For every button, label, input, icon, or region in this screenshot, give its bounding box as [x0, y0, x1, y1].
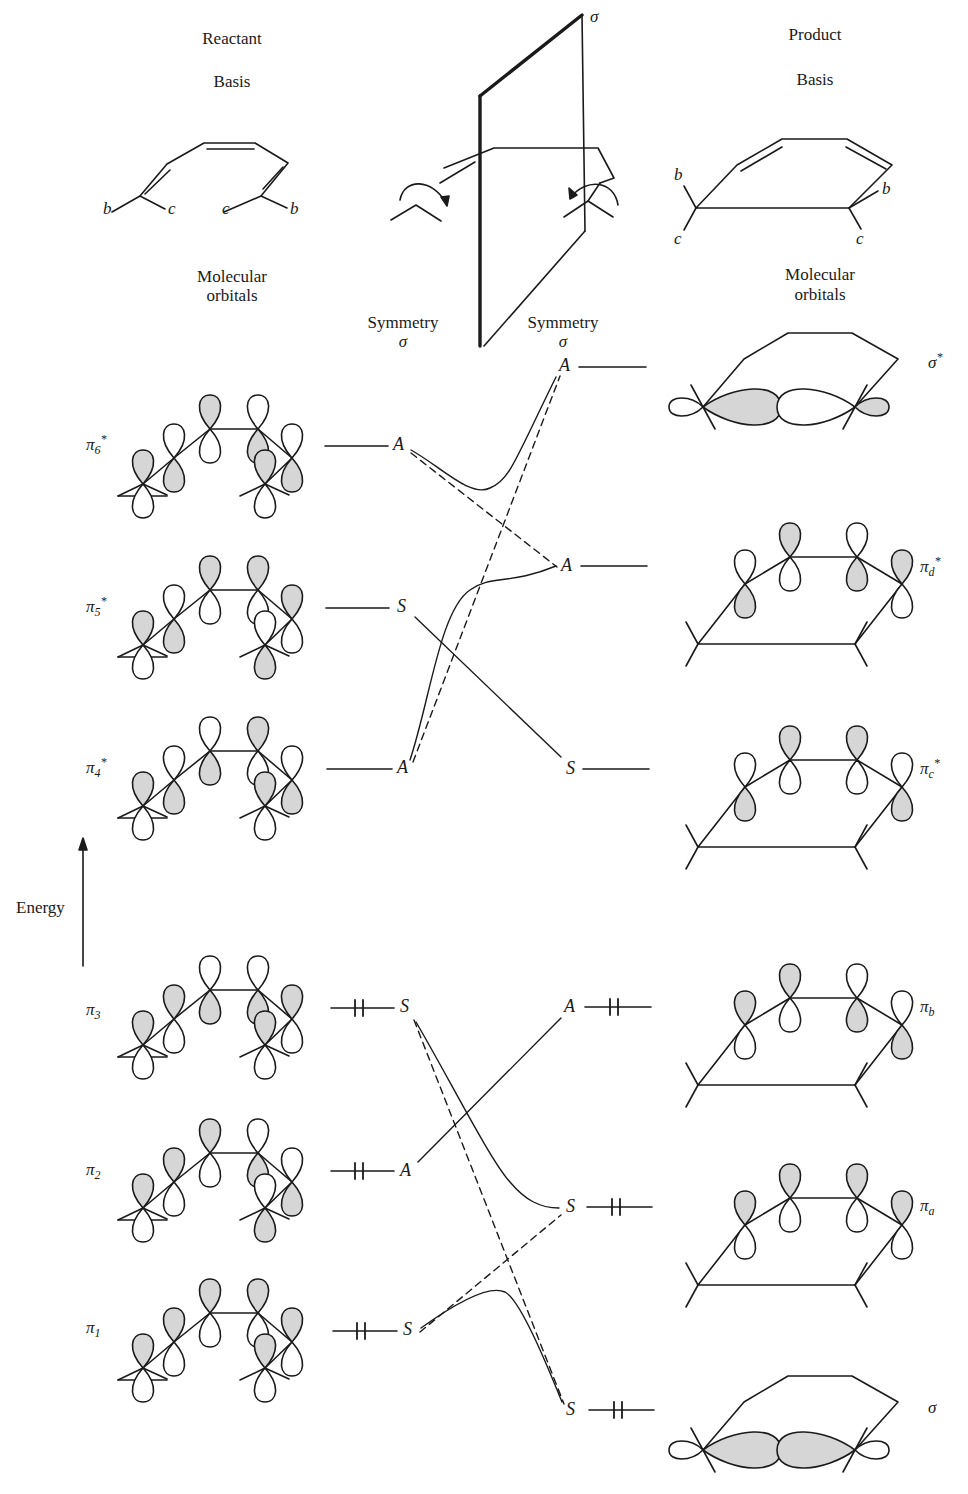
symmetry-left-sigma: σ [399, 331, 407, 353]
reactant-basis-b-right: b [290, 198, 299, 220]
conrotation-arrow-left-icon [400, 184, 449, 206]
correlation-pi5-pi-c-star [415, 617, 561, 757]
sym-pi-d-star: A [561, 555, 572, 576]
product-basis-label: Basis [797, 69, 834, 91]
reactant-orbital-pi4 [118, 717, 303, 840]
product-orbital-sigma [669, 1376, 898, 1472]
orbital-label-pi3: π3 [86, 1000, 101, 1023]
reactant-mo-label-2: orbitals [207, 285, 258, 307]
mirror-plane [391, 15, 614, 346]
reactant-orbital-pi1 [118, 1279, 303, 1402]
product-orbital-pi_b [686, 964, 913, 1107]
reactant-basis-label: Basis [214, 71, 251, 93]
orbital-label-pi6-star: π6* [86, 432, 107, 458]
sym-pi3: S [400, 996, 409, 1017]
product-basis-b-right: b [882, 178, 891, 200]
product-mo-label-2: orbitals [795, 284, 846, 306]
sym-pi4: A [397, 757, 408, 778]
conrotation-arrow-right-icon [569, 184, 618, 205]
reactant-orbital-pi6 [118, 395, 303, 518]
sym-pi2: A [400, 1160, 411, 1181]
orbital-label-pi-c-star: πc* [920, 756, 940, 782]
orbital-label-pi1: π1 [86, 1318, 101, 1341]
product-basis-c-right: c [856, 228, 864, 250]
reactant-basis-molecule [112, 143, 288, 212]
sym-sigma-star: A [559, 355, 570, 376]
orbital-label-pi-d-star: πd* [920, 554, 941, 580]
dashed-pi4-sigma-star [413, 376, 560, 762]
dashed-pi6-pi-d-star [411, 453, 557, 567]
reactant-orbital-pi5 [118, 556, 303, 679]
product-mo-label-1: Molecular [785, 264, 855, 286]
product-orbital-sigma_star [669, 333, 898, 429]
sym-pi5: S [397, 596, 406, 617]
sym-pi-a: S [566, 1196, 575, 1217]
sym-pi6: A [393, 434, 404, 455]
sym-pi1: S [403, 1319, 412, 1340]
reactant-title: Reactant [202, 28, 261, 50]
reactant-orbital-pi2 [118, 1119, 303, 1242]
product-basis-c-left: c [674, 228, 682, 250]
reactant-orbital-pi3 [118, 956, 303, 1079]
diagram-graphics [0, 0, 968, 1494]
sym-pi-b: A [564, 996, 575, 1017]
orbital-label-pi5-star: π5* [86, 594, 107, 620]
orbital-label-sigma: σ [928, 1398, 936, 1418]
product-orbital-pi_d_star [686, 523, 913, 666]
orbital-label-pi-a: πa [920, 1196, 935, 1219]
sym-pi-c-star: S [566, 758, 575, 779]
product-orbital-pi_a [686, 1164, 913, 1307]
symmetry-right-sigma: σ [559, 331, 567, 353]
reactant-basis-b-left: b [103, 198, 112, 220]
reactant-basis-c-right: c [222, 198, 230, 220]
correlation-pi4-pi-d-star [410, 566, 556, 760]
correlation-pi1-sigma [421, 1290, 562, 1402]
product-basis-molecule [684, 139, 892, 230]
correlation-pi6-sigma-star [411, 377, 556, 490]
electron-pair-marks [355, 999, 622, 1418]
correlation-pi3-pi-a [416, 1022, 559, 1208]
energy-axis-label: Energy [16, 897, 65, 919]
reactant-orbital-drawings [118, 395, 303, 1402]
correlation-diagram: Reactant Basis Molecular orbitals Produc… [0, 0, 968, 1494]
orbital-label-pi2: π2 [86, 1160, 101, 1183]
energy-levels [325, 367, 654, 1410]
product-title: Product [789, 24, 842, 46]
mirror-plane-label: σ [590, 6, 598, 28]
correlation-lines [410, 376, 564, 1404]
orbital-label-sigma-star: σ* [928, 350, 942, 373]
energy-axis-arrow-icon [79, 838, 87, 966]
orbital-label-pi4-star: π4* [86, 755, 107, 781]
reactant-basis-c-left: c [168, 198, 176, 220]
sym-sigma: S [566, 1399, 575, 1420]
dashed-pi1-pi-a [420, 1215, 561, 1332]
product-basis-b-left: b [674, 164, 683, 186]
product-orbital-drawings [669, 333, 913, 1472]
product-orbital-pi_c_star [686, 726, 913, 869]
dashed-pi3-sigma [414, 1020, 564, 1404]
orbital-label-pi-b: πb [920, 997, 935, 1020]
correlation-pi2-pi-b [418, 1018, 561, 1162]
